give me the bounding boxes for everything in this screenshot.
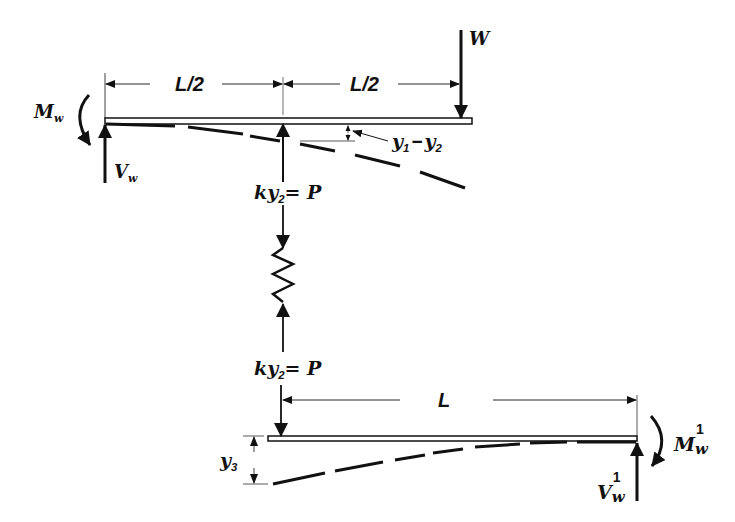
y2-symbol: y — [425, 130, 436, 152]
label-shear-vw: Vw — [114, 163, 137, 185]
label-top-right-half: L/2 — [350, 74, 379, 94]
spring-force-rhs: = P — [285, 357, 322, 379]
moment-subscript: w — [695, 442, 708, 457]
moment-arrow-mw — [80, 95, 90, 145]
label-load-w: W — [469, 30, 489, 48]
spring-force-lhs: ky — [254, 357, 278, 379]
shear-subscript: w — [612, 490, 625, 505]
spring-force-rhs: = P — [285, 181, 322, 203]
label-moment-mw1: M1w — [674, 432, 707, 454]
moment-superscript: 1 — [696, 422, 704, 436]
minus-operator: − — [409, 131, 424, 152]
y1-symbol: y — [392, 130, 403, 152]
spring-zigzag — [273, 248, 293, 302]
y3-subscript: 3 — [231, 461, 237, 473]
label-deflection-y1-y2: y1−y2 — [392, 132, 442, 154]
label-shear-vw1: V1w — [597, 480, 624, 502]
shear-subscript: w — [128, 172, 137, 185]
moment-subscript: w — [54, 112, 63, 125]
moment-indices: 1w — [695, 432, 707, 451]
shear-symbol: V — [114, 161, 128, 182]
y3-symbol: y — [220, 449, 231, 471]
deflection-y3-marker — [243, 436, 268, 484]
label-spring-force-bottom: ky2= P — [254, 359, 321, 381]
label-deflection-y3: y3 — [220, 451, 237, 473]
label-top-left-half: L/2 — [175, 74, 204, 94]
label-bottom-length: L — [438, 390, 450, 410]
label-spring-force-top: ky2= P — [254, 183, 321, 205]
bottom-deflection-curve — [273, 442, 636, 484]
moment-symbol: M — [674, 433, 695, 455]
shear-symbol: V — [597, 481, 612, 503]
spring-force-lhs: ky — [254, 181, 278, 203]
moment-symbol: M — [34, 101, 54, 122]
bottom-beam — [268, 436, 637, 441]
moment-arrow-mw1 — [651, 416, 662, 466]
top-beam — [105, 118, 472, 124]
label-moment-mw: Mw — [34, 103, 63, 125]
y2-subscript: 2 — [436, 142, 442, 154]
shear-indices: 1w — [612, 480, 624, 499]
deflection-y1-y2-marker — [300, 126, 388, 141]
shear-superscript: 1 — [613, 470, 621, 484]
